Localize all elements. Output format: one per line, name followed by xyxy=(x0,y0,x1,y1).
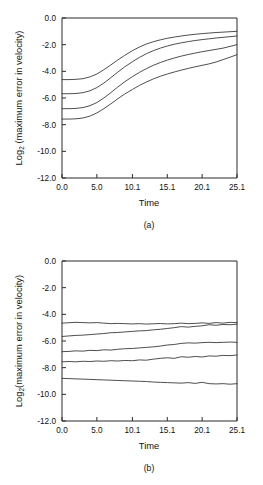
data-curve-curve-4 xyxy=(62,355,237,362)
y-axis-title: Log2 (maximum error in velocity) xyxy=(13,31,25,166)
data-curve-curve-1 xyxy=(62,322,237,324)
x-tick-label: 0.0 xyxy=(56,426,68,435)
y-tick-label: 0.0 xyxy=(45,14,57,23)
y-axis-title: Log2(maximum error in velocity) xyxy=(13,275,25,407)
y-ticks-b xyxy=(62,261,66,421)
x-tick-label: 25.1 xyxy=(229,426,245,435)
data-curves-b xyxy=(62,322,237,384)
y-tick-label: -10.0 xyxy=(37,390,56,399)
x-axis-title: Time xyxy=(139,197,159,208)
x-tick-label: 15.1 xyxy=(159,183,175,192)
data-curve-curve-3 xyxy=(62,45,237,109)
y-ticklabels-a: 0.0-2.0-4.0-6.0-8.0-10.0-12.0 xyxy=(37,14,56,183)
panel-caption-b: (b) xyxy=(144,463,155,473)
x-tick-label: 5.0 xyxy=(91,183,103,192)
data-curves-a xyxy=(62,31,237,119)
x-tick-label: 25.1 xyxy=(229,183,245,192)
x-tick-label: 10.1 xyxy=(124,183,140,192)
y-ticks-a xyxy=(62,18,66,178)
x-ticks-b xyxy=(62,417,237,421)
y-tick-label: 0.0 xyxy=(45,257,57,266)
chart-panel-a: 0.0-2.0-4.0-6.0-8.0-10.0-12.0 0.05.010.1… xyxy=(0,0,263,243)
y-tick-label: -10.0 xyxy=(37,147,56,156)
x-ticklabels-b: 0.05.010.115.120.125.1 xyxy=(56,426,245,435)
chart-panel-b: 0.0-2.0-4.0-6.0-8.0-10.0-12.0 0.05.010.1… xyxy=(0,243,263,485)
y-tick-label: -8.0 xyxy=(42,121,57,130)
y-ticklabels-b: 0.0-2.0-4.0-6.0-8.0-10.0-12.0 xyxy=(37,257,56,426)
data-curve-curve-5 xyxy=(62,378,237,384)
y-tick-label: -8.0 xyxy=(42,364,57,373)
data-curve-curve-2 xyxy=(62,36,237,94)
x-tick-label: 20.1 xyxy=(194,183,210,192)
y-tick-label: -4.0 xyxy=(42,310,57,319)
plot-frame-b xyxy=(62,261,237,421)
x-tick-label: 20.1 xyxy=(194,426,210,435)
x-tick-label: 0.0 xyxy=(56,183,68,192)
data-curve-curve-3 xyxy=(62,342,237,352)
chart-svg-b: 0.0-2.0-4.0-6.0-8.0-10.0-12.0 0.05.010.1… xyxy=(0,243,263,485)
y-tick-label: -6.0 xyxy=(42,94,57,103)
plot-frame-a xyxy=(62,18,237,178)
x-tick-label: 10.1 xyxy=(124,426,140,435)
y-tick-label: -12.0 xyxy=(37,174,56,183)
data-curve-curve-2 xyxy=(62,324,237,336)
x-tick-label: 5.0 xyxy=(91,426,103,435)
panel-caption-a: (a) xyxy=(144,220,155,230)
x-ticks-a xyxy=(62,174,237,178)
y-tick-label: -6.0 xyxy=(42,337,57,346)
y-tick-label: -2.0 xyxy=(42,41,57,50)
chart-svg-a: 0.0-2.0-4.0-6.0-8.0-10.0-12.0 0.05.010.1… xyxy=(0,0,263,243)
x-tick-label: 15.1 xyxy=(159,426,175,435)
x-axis-title: Time xyxy=(139,440,159,451)
y-tick-label: -12.0 xyxy=(37,417,56,426)
figure-container: 0.0-2.0-4.0-6.0-8.0-10.0-12.0 0.05.010.1… xyxy=(0,0,263,485)
y-tick-label: -4.0 xyxy=(42,67,57,76)
data-curve-curve-4 xyxy=(62,55,237,119)
x-ticklabels-a: 0.05.010.115.120.125.1 xyxy=(56,183,245,192)
y-tick-label: -2.0 xyxy=(42,284,57,293)
